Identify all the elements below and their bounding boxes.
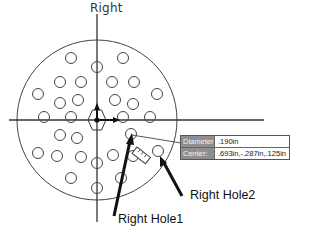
hole-circle[interactable] (39, 112, 50, 123)
hole-circle[interactable] (145, 112, 156, 123)
hole-circle[interactable] (55, 77, 66, 88)
hole-circle[interactable] (153, 146, 164, 157)
hole-circle[interactable] (66, 112, 77, 123)
hole-circle[interactable] (55, 98, 66, 109)
hole2-callout-arrow (164, 163, 182, 196)
center-label: Center: (181, 148, 214, 159)
hole-circle[interactable] (72, 133, 83, 144)
hole-circle[interactable] (128, 99, 139, 110)
tooltip-leader-line (132, 135, 181, 143)
diameter-value: .190in (214, 136, 289, 147)
hole-circle[interactable] (66, 53, 77, 64)
diameter-row: Diameter: .190in (181, 136, 289, 147)
hole-circle[interactable] (52, 151, 63, 162)
hole-circle[interactable] (108, 150, 119, 161)
hole-circle[interactable] (107, 77, 118, 88)
hole-circle[interactable] (66, 173, 77, 184)
hole-info-tooltip: Diameter: .190in Center: .693in,-.287in,… (180, 135, 290, 160)
hole-circle[interactable] (76, 152, 87, 163)
hole-circle[interactable] (76, 77, 87, 88)
hole-pattern[interactable] (33, 53, 164, 194)
hole-circle[interactable] (110, 95, 121, 106)
hole-circle[interactable] (118, 53, 129, 64)
right-hole1-label: Right Hole1 (118, 212, 183, 226)
hole-circle[interactable] (152, 89, 163, 100)
x-direction-arrow-icon (113, 117, 120, 123)
center-value: .693in,-.287in,.125in (214, 148, 289, 159)
hole1-callout-arrow (114, 141, 130, 216)
center-row: Center: .693in,-.287in,.125in (181, 147, 289, 159)
hole-circle[interactable] (55, 130, 66, 141)
hole-circle[interactable] (33, 148, 44, 159)
hole-circle[interactable] (33, 89, 44, 100)
diameter-label: Diameter: (181, 136, 214, 147)
y-direction-arrow-icon (94, 103, 100, 110)
hole-circle[interactable] (73, 95, 84, 106)
right-hole2-label: Right Hole2 (190, 188, 255, 202)
hole-circle[interactable] (118, 112, 129, 123)
plane-label: Right (90, 1, 123, 15)
hole-circle[interactable] (129, 77, 140, 88)
